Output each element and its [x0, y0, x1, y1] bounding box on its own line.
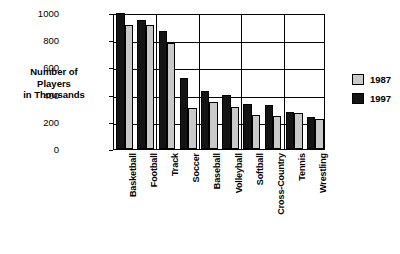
chart-legend: 1987 1997	[352, 74, 391, 112]
bar-series-container	[114, 15, 324, 149]
bar-1997-track[interactable]	[159, 31, 167, 149]
x-tick-label-tennis: Tennis	[297, 153, 307, 181]
legend-item-1987: 1987	[352, 74, 391, 85]
bar-1997-cross-country[interactable]	[265, 105, 273, 149]
bar-1997-baseball[interactable]	[201, 91, 209, 149]
bar-1997-softball[interactable]	[243, 104, 251, 149]
bar-1997-basketball[interactable]	[116, 13, 124, 149]
y-tick-label-400: 400	[15, 91, 59, 101]
y-tick-label-800: 800	[15, 36, 59, 46]
bar-group	[284, 15, 305, 149]
bar-1997-football[interactable]	[137, 20, 145, 149]
x-tick-label-soccer: Soccer	[191, 153, 201, 182]
legend-item-1997: 1997	[352, 93, 391, 104]
legend-label-1997: 1997	[370, 93, 391, 104]
bar-1997-wrestling[interactable]	[307, 117, 315, 149]
legend-label-1987: 1987	[370, 74, 391, 85]
y-axis-title-line-2: Players	[6, 78, 102, 90]
x-tick-label-softball: Softball	[255, 153, 265, 185]
bar-1987-softball[interactable]	[252, 115, 260, 149]
y-tick-mark-0	[109, 150, 113, 151]
bar-group	[262, 15, 283, 149]
x-tick-label-baseball: Baseball	[212, 153, 222, 189]
plot-area	[113, 14, 325, 150]
bar-1997-tennis[interactable]	[286, 112, 294, 149]
x-tick-label-track: Track	[170, 153, 180, 176]
x-tick-label-football: Football	[149, 153, 159, 187]
bar-1987-track[interactable]	[167, 43, 175, 149]
bar-group	[135, 15, 156, 149]
plot-inner	[114, 15, 324, 149]
bar-1987-soccer[interactable]	[188, 108, 196, 149]
bar-1987-football[interactable]	[146, 25, 154, 149]
bar-1987-baseball[interactable]	[209, 102, 217, 149]
bar-group	[114, 15, 135, 149]
legend-swatch-1997	[352, 93, 364, 104]
legend-swatch-1987	[352, 74, 364, 85]
bar-1997-soccer[interactable]	[180, 78, 188, 149]
bar-1987-cross-country[interactable]	[273, 116, 281, 149]
x-tick-label-wrestling: Wrestling	[318, 153, 328, 193]
bar-1987-tennis[interactable]	[294, 113, 302, 149]
y-tick-label-0: 0	[15, 145, 59, 155]
bar-group	[220, 15, 241, 149]
y-tick-label-600: 600	[15, 63, 59, 73]
bar-group	[178, 15, 199, 149]
bar-1987-basketball[interactable]	[125, 25, 133, 149]
x-tick-label-basketball: Basketball	[128, 153, 138, 197]
bar-1987-volleyball[interactable]	[231, 107, 239, 149]
bar-group	[199, 15, 220, 149]
x-tick-label-volleyball: Volleyball	[234, 153, 244, 193]
y-tick-label-1000: 1000	[15, 9, 59, 19]
x-tick-label-cross-country: Cross-Country	[276, 153, 286, 215]
bar-group	[156, 15, 177, 149]
bar-group	[241, 15, 262, 149]
y-tick-label-200: 200	[15, 118, 59, 128]
bar-1997-volleyball[interactable]	[222, 95, 230, 149]
bar-1987-wrestling[interactable]	[315, 119, 323, 149]
bar-group	[305, 15, 326, 149]
